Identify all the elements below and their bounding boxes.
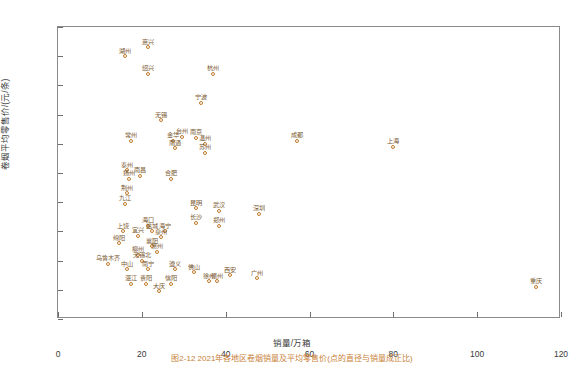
- scatter-point-label: 乌鲁木齐: [96, 255, 120, 261]
- scatter-point[interactable]: [129, 282, 133, 286]
- scatter-point[interactable]: [203, 151, 207, 155]
- scatter-point-label: 成都: [291, 132, 303, 138]
- scatter-point[interactable]: [144, 282, 148, 286]
- scatter-point[interactable]: [173, 267, 177, 271]
- scatter-point-label: 西安: [224, 267, 236, 273]
- scatter-point[interactable]: [159, 235, 163, 239]
- scatter-point-label: 绵阳: [113, 234, 125, 240]
- scatter-point-label: 南宁: [142, 261, 154, 267]
- scatter-point-label: 中山: [121, 261, 133, 267]
- scatter-point[interactable]: [215, 279, 219, 283]
- scatter-point-label: 上海: [387, 138, 399, 144]
- scatter-point[interactable]: [169, 177, 173, 181]
- figure-container: 卷烟平均零售价/(元/条) 16017018019020021022023024…: [0, 0, 584, 366]
- scatter-point[interactable]: [138, 174, 142, 178]
- scatter-point-label: 大庆: [153, 283, 165, 289]
- plot-area: 160170180190200210220230240250260 020406…: [57, 26, 560, 318]
- scatter-point-label: 佛山: [188, 264, 200, 270]
- scatter-point-label: 贵阳: [140, 275, 152, 281]
- scatter-point-label: 郑州: [213, 217, 225, 223]
- scatter-point[interactable]: [194, 136, 198, 140]
- scatter-point[interactable]: [157, 289, 161, 293]
- scatter-point-label: 金华: [167, 132, 179, 138]
- figure-caption: 图2-12 2021年各地区卷烟销量及平均零售价(点的直径与销量成正比): [0, 352, 584, 366]
- scatter-point-label: 无锡北: [133, 252, 151, 258]
- scatter-point[interactable]: [207, 279, 211, 283]
- scatter-point-label: 荆州: [121, 185, 133, 191]
- scatter-point-label: 温州: [199, 135, 211, 141]
- scatter-point[interactable]: [194, 221, 198, 225]
- scatter-point[interactable]: [127, 177, 131, 181]
- scatter-point[interactable]: [255, 276, 259, 280]
- scatter-point-label: 常州: [125, 132, 137, 138]
- scatter-point-label: 信阳: [165, 275, 177, 281]
- scatter-point-label: 南昌: [134, 167, 146, 173]
- scatter-point[interactable]: [194, 206, 198, 210]
- scatter-point[interactable]: [159, 118, 163, 122]
- scatter-point[interactable]: [117, 241, 121, 245]
- scatter-point[interactable]: [217, 224, 221, 228]
- scatter-point[interactable]: [211, 72, 215, 76]
- scatter-point-label: 苏州: [199, 144, 211, 150]
- scatter-point[interactable]: [146, 72, 150, 76]
- scatter-point[interactable]: [169, 282, 173, 286]
- scatter-point[interactable]: [146, 267, 150, 271]
- scatter-point[interactable]: [257, 212, 261, 216]
- scatter-point-label: 广州: [251, 270, 263, 276]
- scatter-point-label: 武汉: [213, 202, 225, 208]
- scatter-point-label: 无锡: [155, 112, 167, 118]
- scatter-point[interactable]: [123, 54, 127, 58]
- scatter-point-label: 湖州: [119, 48, 131, 54]
- scatter-point[interactable]: [129, 139, 133, 143]
- scatter-point-label: 泉州: [155, 229, 167, 235]
- x-axis-title: 销量/万箱: [0, 336, 584, 348]
- scatter-point[interactable]: [146, 45, 150, 49]
- scatter-point[interactable]: [192, 270, 196, 274]
- scatter-point-label: 徐州: [203, 272, 215, 278]
- scatter-point[interactable]: [391, 145, 395, 149]
- scatter-point[interactable]: [199, 101, 203, 105]
- scatter-point-label: 嘉兴: [142, 39, 154, 45]
- scatter-point-label: 绍兴: [142, 65, 154, 71]
- scatter-point[interactable]: [125, 267, 129, 271]
- scatter-point[interactable]: [136, 234, 140, 238]
- y-axis-title: 卷烟平均零售价/(元/条): [0, 79, 10, 170]
- scatter-point-label: 杭州: [207, 65, 219, 71]
- scatter-point[interactable]: [228, 273, 232, 277]
- scatter-point[interactable]: [123, 202, 127, 206]
- scatter-points-layer: 嘉兴湖州绍兴杭州宁波无锡台州南京常州金华温州成都上海南通苏州泰州南昌扬州合肥荆州…: [58, 27, 559, 317]
- scatter-point[interactable]: [534, 285, 538, 289]
- scatter-point-label: 遵义: [169, 261, 181, 267]
- scatter-point[interactable]: [155, 250, 159, 254]
- scatter-point-label: 昆明: [190, 199, 202, 205]
- scatter-point-label: 宜兴: [132, 227, 144, 233]
- scatter-point[interactable]: [295, 139, 299, 143]
- scatter-point-label: 合肥: [165, 170, 177, 176]
- scatter-point-label: 上饶: [117, 223, 129, 229]
- scatter-point-label: 泰州: [121, 161, 133, 167]
- scatter-point-label: 长沙: [190, 214, 202, 220]
- scatter-point-label: 南通: [169, 140, 181, 146]
- scatter-point-label: 深圳: [253, 205, 265, 211]
- scatter-point[interactable]: [173, 146, 177, 150]
- scatter-point-label: 湛江: [125, 275, 137, 281]
- scatter-point-label: 重庆: [530, 278, 542, 284]
- scatter-point-label: 惠州: [151, 243, 163, 249]
- y-tick-mark: [58, 319, 63, 320]
- scatter-point-label: 九江: [119, 195, 131, 201]
- scatter-point-label: 扬州: [123, 170, 135, 176]
- x-tick-mark: [561, 312, 562, 317]
- scatter-point-label: 宁波: [195, 94, 207, 100]
- scatter-point[interactable]: [106, 262, 110, 266]
- scatter-point[interactable]: [217, 209, 221, 213]
